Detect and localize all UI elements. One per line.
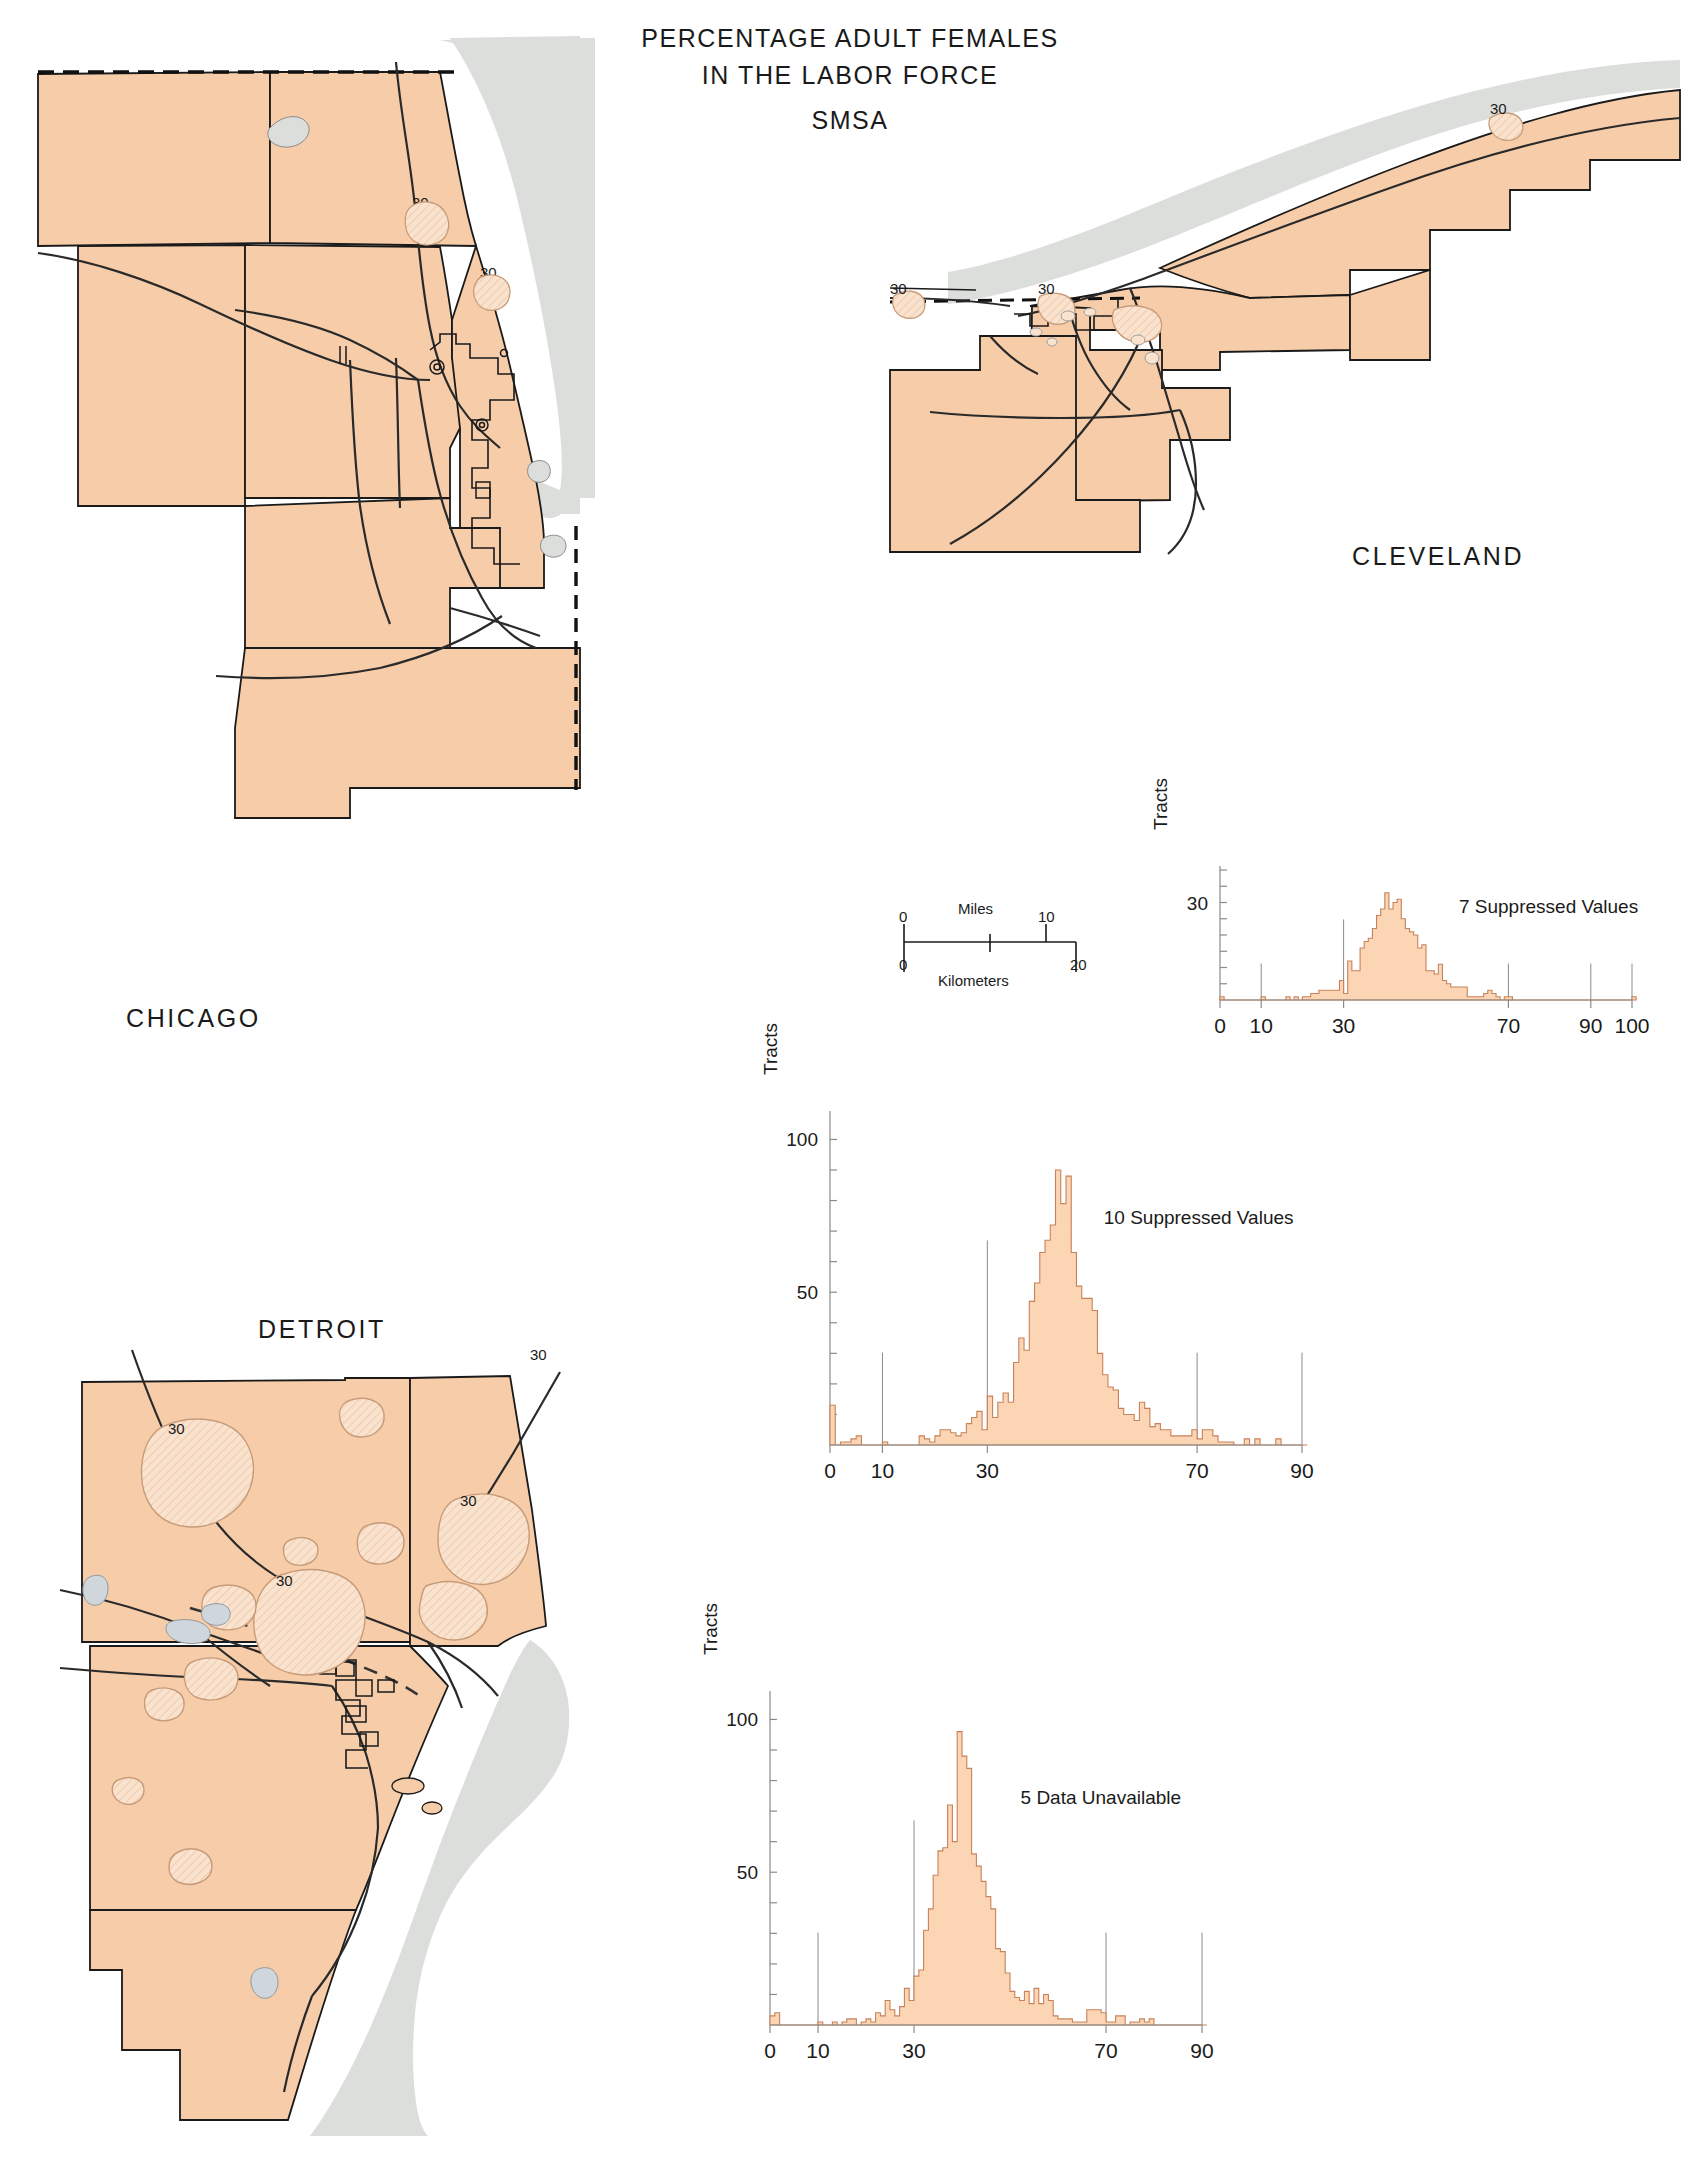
chicago-hist-svg: 5010001030709010 Suppressed Values	[760, 1097, 1320, 1497]
cleveland-histogram-annotation: 7 Suppressed Values	[1459, 896, 1638, 917]
cleveland-hist-svg: 300103070901007 Suppressed Values	[1150, 852, 1650, 1052]
scale-miles-label: Miles	[958, 900, 993, 917]
svg-text:50: 50	[737, 1862, 758, 1883]
svg-text:30: 30	[890, 280, 907, 297]
detroit-histogram-annotation: 5 Data Unavailable	[1021, 1787, 1182, 1808]
detroit-map[interactable]: 30 30 30 30	[60, 1350, 760, 2140]
svg-text:100: 100	[726, 1709, 758, 1730]
svg-text:30: 30	[1187, 893, 1208, 914]
svg-text:100: 100	[786, 1129, 818, 1150]
cleveland-map-svg: 30 30 30	[890, 40, 1680, 580]
svg-text:10: 10	[1250, 1014, 1273, 1037]
svg-text:30: 30	[276, 1572, 293, 1589]
svg-text:10: 10	[871, 1459, 894, 1482]
svg-text:0: 0	[1214, 1014, 1226, 1037]
chicago-land	[38, 72, 580, 818]
svg-text:30: 30	[460, 1492, 477, 1509]
chicago-map-svg: 30 30	[20, 28, 640, 818]
svg-text:30: 30	[902, 2039, 925, 2062]
chicago-histogram-annotation: 10 Suppressed Values	[1104, 1207, 1294, 1228]
svg-text:30: 30	[1038, 280, 1055, 297]
svg-text:30: 30	[1490, 100, 1507, 117]
svg-text:0: 0	[764, 2039, 776, 2062]
svg-text:70: 70	[1497, 1014, 1520, 1037]
svg-text:0: 0	[824, 1459, 836, 1482]
svg-text:30: 30	[976, 1459, 999, 1482]
svg-text:90: 90	[1290, 1459, 1313, 1482]
svg-text:30: 30	[530, 1346, 547, 1363]
chicago-hist-ylabel: Tracts	[760, 515, 782, 1075]
scale-km-tick-0: 0	[899, 956, 907, 973]
svg-text:30: 30	[168, 1420, 185, 1437]
scale-kilometers-label: Kilometers	[938, 972, 1009, 989]
chicago-map[interactable]: 30 30	[20, 28, 640, 818]
chicago-contour-30a	[405, 202, 448, 245]
chicago-histogram[interactable]: Tracts 5010001030709010 Suppressed Value…	[760, 1075, 1320, 1475]
svg-text:30: 30	[1332, 1014, 1355, 1037]
cleveland-histogram[interactable]: Tracts 300103070901007 Suppressed Values	[1150, 830, 1650, 1030]
scale-miles-tick-0: 0	[899, 908, 907, 925]
scale-bar: Miles 0 10 0 20 Kilometers	[880, 880, 1110, 1000]
svg-text:10: 10	[806, 2039, 829, 2062]
cleveland-hist-ylabel: Tracts	[1150, 330, 1172, 830]
svg-text:70: 70	[1094, 2039, 1117, 2062]
detroit-map-svg: 30 30 30 30	[60, 1350, 760, 2140]
detroit-histogram[interactable]: Tracts 501000103070905 Data Unavailable	[700, 1655, 1220, 2055]
svg-text:70: 70	[1185, 1459, 1208, 1482]
detroit-hist-svg: 501000103070905 Data Unavailable	[700, 1677, 1220, 2077]
detroit-hist-ylabel: Tracts	[700, 1135, 722, 1655]
cleveland-label: CLEVELAND	[1352, 542, 1524, 571]
chicago-contour-30b	[474, 275, 510, 310]
svg-text:100: 100	[1614, 1014, 1649, 1037]
chicago-label: CHICAGO	[126, 1004, 261, 1033]
svg-text:50: 50	[797, 1282, 818, 1303]
detroit-label: DETROIT	[258, 1315, 386, 1344]
svg-text:90: 90	[1579, 1014, 1602, 1037]
scale-miles-tick-10: 10	[1038, 908, 1055, 925]
scale-km-tick-20: 20	[1070, 956, 1087, 973]
svg-text:90: 90	[1190, 2039, 1213, 2062]
cleveland-map[interactable]: 30 30 30	[890, 40, 1680, 580]
